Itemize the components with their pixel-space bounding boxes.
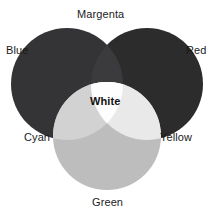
label-blue: Blue <box>6 44 28 56</box>
venn-diagram-graphic <box>0 0 214 215</box>
label-yellow: Yellow <box>160 131 192 143</box>
label-cyan: Cyan <box>24 131 50 143</box>
label-red: Red <box>186 44 206 56</box>
label-green: Green <box>92 196 123 208</box>
label-white: White <box>90 95 120 107</box>
venn-diagram-figure: Margenta Blue Red Cyan Yellow White Gree… <box>0 0 214 215</box>
label-magenta: Margenta <box>77 8 124 20</box>
